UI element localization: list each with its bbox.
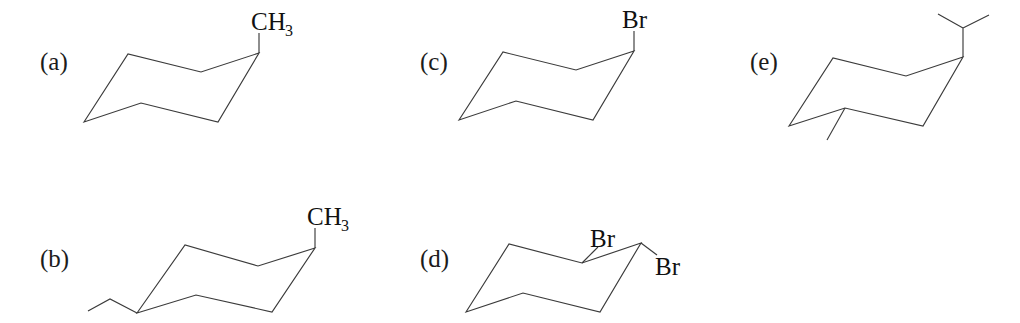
atom-label-bromo-equatorial-lower-right: Br (655, 253, 681, 280)
atom-label-bromo-equatorial-upper-right: Br (590, 225, 616, 252)
structures-canvas: (a)CH3(b)CH3(c)Br(d)BrBr(e) (0, 0, 1020, 323)
atom-label-bromo-axial-up: Br (622, 6, 648, 33)
panel-label-b: (b) (40, 245, 69, 273)
figure-background (0, 0, 1020, 323)
panel-label-e: (e) (750, 48, 778, 76)
panel-label-d: (d) (420, 245, 449, 273)
atom-subscript-methyl-equatorial-up: 3 (341, 217, 349, 234)
chemistry-figure: (a)CH3(b)CH3(c)Br(d)BrBr(e) (0, 0, 1020, 323)
atom-subscript-methyl-axial-up: 3 (285, 22, 293, 39)
panel-label-a: (a) (40, 48, 68, 76)
panel-label-c: (c) (420, 48, 448, 76)
atom-label-methyl-equatorial-up: CH (307, 203, 342, 230)
atom-label-methyl-axial-up: CH (251, 8, 286, 35)
